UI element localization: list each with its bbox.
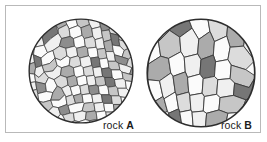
specimen-b-grains [145, 17, 257, 129]
figure-frame: rockA rockB [5, 5, 261, 133]
specimen-a-label: rockA [103, 119, 134, 131]
specimen-b-label-id: B [244, 119, 252, 131]
specimen-b-label-name: rock [221, 119, 241, 131]
specimen-a-svg [27, 17, 135, 125]
specimen-a-diagram [27, 17, 135, 125]
specimen-b-label: rockB [221, 119, 252, 131]
specimen-b-diagram [145, 17, 257, 129]
specimen-b-svg [145, 17, 257, 129]
specimen-a-grains [27, 17, 135, 125]
specimen-a-label-id: A [126, 119, 134, 131]
figure-root: rockA rockB [0, 0, 267, 142]
specimen-a-label-name: rock [103, 119, 123, 131]
